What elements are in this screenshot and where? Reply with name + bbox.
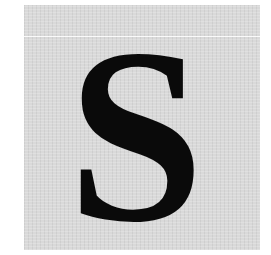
serif-letter-glyph: S xyxy=(20,13,251,255)
letter-card: S xyxy=(24,5,260,250)
